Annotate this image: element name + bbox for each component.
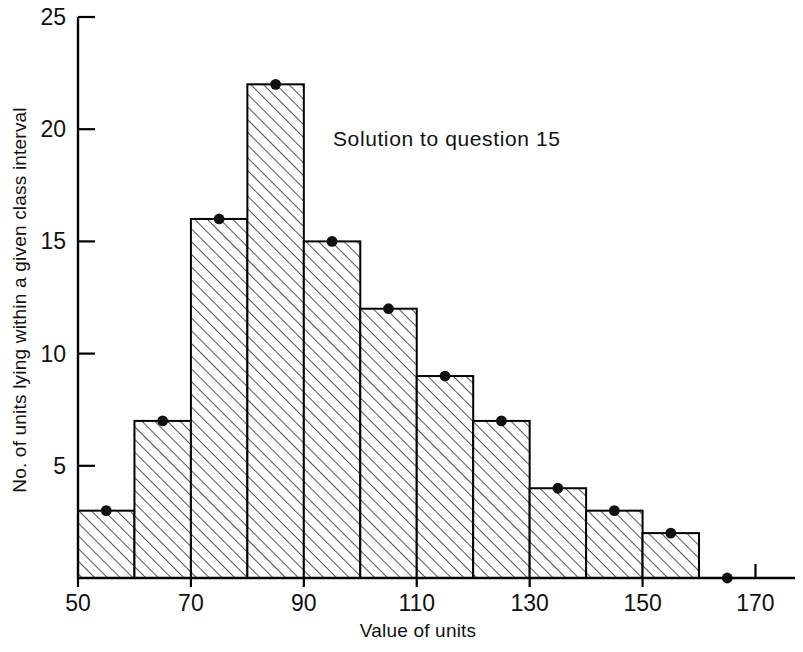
histogram-bar (643, 533, 699, 578)
y-tick-label: 5 (53, 453, 66, 479)
y-tick-label: 25 (40, 4, 66, 30)
y-tick-label: 10 (40, 341, 66, 367)
data-point-marker (214, 214, 225, 225)
chart-annotation: Solution to question 15 (333, 127, 560, 150)
x-tick-label: 70 (178, 590, 204, 616)
data-point-marker (440, 371, 451, 382)
data-point-marker (665, 528, 676, 539)
histogram-bar (78, 511, 134, 578)
chart-svg: 510152025 507090110130150170 Solution to… (0, 0, 803, 652)
data-point-marker (327, 236, 338, 247)
data-point-marker (101, 505, 112, 516)
y-tick-label: 20 (40, 116, 66, 142)
histogram-bar (304, 241, 360, 578)
x-tick-label: 50 (65, 590, 91, 616)
x-tick-label: 150 (623, 590, 661, 616)
x-axis-label: Value of units (360, 620, 477, 641)
histogram-bar (134, 421, 190, 578)
histogram-figure: 510152025 507090110130150170 Solution to… (0, 0, 803, 652)
histogram-bar (473, 421, 529, 578)
histogram-bar (360, 309, 416, 578)
y-tick-label: 15 (40, 228, 66, 254)
histogram-bar (191, 219, 247, 578)
histogram-bar (530, 488, 586, 578)
x-tick-label: 130 (510, 590, 548, 616)
x-tick-label: 170 (736, 590, 774, 616)
data-point-marker (552, 483, 563, 494)
histogram-bar (417, 376, 473, 578)
histogram-bar (586, 511, 642, 578)
data-point-marker (270, 79, 281, 90)
data-point-marker (609, 505, 620, 516)
x-tick-label: 110 (398, 590, 435, 616)
data-point-marker (383, 303, 394, 314)
histogram-bar (247, 84, 303, 578)
data-point-marker (496, 416, 507, 427)
y-axis-label: No. of units lying within a given class … (9, 107, 30, 493)
data-point-marker (157, 416, 168, 427)
x-tick-label: 90 (291, 590, 317, 616)
